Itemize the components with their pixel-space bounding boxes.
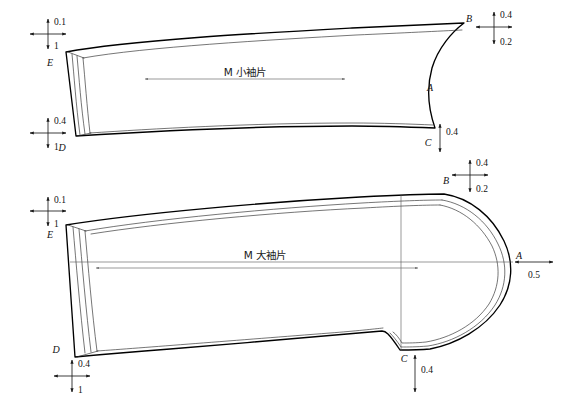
upper-dim-E-down-value: 1	[54, 41, 59, 51]
pattern-drawing-canvas: M 小袖片 E D B A C 0.1 1 0.4 1 0.4 0.2	[0, 0, 567, 404]
lower-dim-C-down-value: 0.4	[421, 365, 433, 375]
lower-dim-A-right-value: 0.5	[528, 270, 540, 280]
lower-point-label-A: A	[515, 250, 523, 261]
lower-dim-B-up-value: 0.4	[476, 158, 488, 168]
lower-point-label-D: D	[51, 344, 60, 355]
lower-dim-E-up-value: 0.1	[54, 195, 66, 205]
lower-dim-B-down-value: 0.2	[476, 184, 488, 194]
lower-point-label-C: C	[401, 353, 408, 364]
upper-dim-B-up-value: 0.4	[500, 10, 512, 20]
lower-point-label-B: B	[443, 175, 449, 186]
upper-dim-D-up-value: 0.4	[54, 116, 66, 126]
lower-dim-D-up-value: 0.4	[78, 359, 90, 369]
lower-dim-E-down-value: 1	[54, 219, 59, 229]
upper-dim-C-up-value: 0.4	[446, 127, 458, 137]
upper-dim-E-up-value: 0.1	[54, 17, 66, 27]
upper-point-label-C: C	[425, 137, 432, 148]
technical-drawing-svg: M 小袖片 E D B A C 0.1 1 0.4 1 0.4 0.2	[0, 0, 567, 404]
upper-piece-label: M 小袖片	[224, 66, 266, 78]
upper-point-label-E: E	[46, 57, 53, 68]
lower-piece-label: M 大袖片	[244, 249, 286, 261]
upper-dim-D-down-value: 1	[54, 142, 59, 152]
upper-dim-B-down-value: 0.2	[500, 37, 512, 47]
upper-point-label-B: B	[466, 13, 472, 24]
upper-point-label-A: A	[426, 82, 434, 93]
lower-dim-D-down-value: 1	[78, 385, 83, 395]
lower-point-label-E: E	[46, 229, 53, 240]
